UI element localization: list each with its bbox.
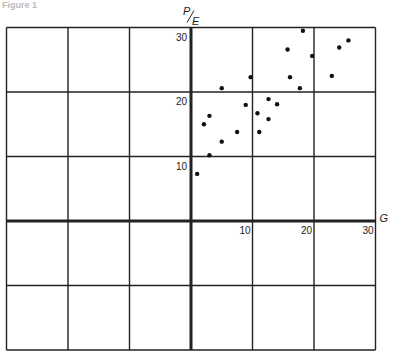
scatter-chart: 102030102030GPE [0,0,394,358]
data-point [235,130,239,134]
data-point [255,111,259,115]
data-point [220,139,224,143]
data-point [285,47,289,51]
data-point [244,103,248,107]
data-point [207,114,211,118]
data-point [330,74,334,78]
data-point [207,153,211,157]
y-tick-label: 10 [176,161,188,172]
data-point [298,86,302,90]
x-axis-label: G [380,212,389,224]
y-axis-label-numerator: P [183,5,191,17]
data-point [266,97,270,101]
data-point [195,172,199,176]
data-point [346,38,350,42]
data-point [248,75,252,79]
x-tick-label: 30 [362,225,374,236]
x-tick-label: 20 [301,225,313,236]
data-point [337,45,341,49]
data-point [310,54,314,58]
y-axis-label-denominator: E [192,15,200,27]
data-point [202,122,206,126]
data-point [275,102,279,106]
y-tick-label: 20 [176,96,188,107]
data-point [301,29,305,33]
y-tick-label: 30 [176,32,188,43]
x-tick-label: 10 [239,225,251,236]
data-point [220,86,224,90]
data-point [266,117,270,121]
data-point [288,75,292,79]
data-point [257,130,261,134]
